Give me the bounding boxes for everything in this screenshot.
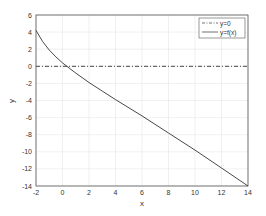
y-tick-label: -10	[22, 148, 32, 155]
y-tick-label: -4	[26, 97, 32, 104]
y-tick-label: -6	[26, 114, 32, 121]
x-tick-label: 0	[61, 189, 65, 196]
legend: y=0 y=f(x)	[199, 18, 245, 38]
y-tick-label: -8	[26, 131, 32, 138]
y-tick-label: 4	[28, 29, 32, 36]
y-tick-label: -2	[26, 80, 32, 87]
y-tick-label: 6	[28, 12, 32, 19]
x-axis-label: x	[140, 199, 144, 208]
y-tick-label: -12	[22, 165, 32, 172]
legend-entry-y0: y=0	[220, 20, 231, 28]
y-axis-label: y	[7, 99, 16, 103]
x-tick-label: -2	[33, 189, 39, 196]
x-tick-label: 12	[218, 189, 226, 196]
x-tick-label: 6	[140, 189, 144, 196]
y-tick-label: 0	[28, 63, 32, 70]
x-tick-label: 14	[244, 189, 252, 196]
x-axis-ticks: -202468101214	[33, 189, 252, 196]
grid-lines	[36, 15, 248, 186]
x-tick-label: 8	[167, 189, 171, 196]
y-axis-ticks: -14-12-10-8-6-4-20246	[22, 12, 32, 190]
x-tick-label: 10	[191, 189, 199, 196]
legend-entry-fx: y=f(x)	[220, 29, 236, 37]
x-tick-label: 2	[87, 189, 91, 196]
y-tick-label: -14	[22, 183, 32, 190]
line-chart: -202468101214 -14-12-10-8-6-4-20246 x y …	[0, 0, 266, 216]
y-tick-label: 2	[28, 46, 32, 53]
x-tick-label: 4	[114, 189, 118, 196]
